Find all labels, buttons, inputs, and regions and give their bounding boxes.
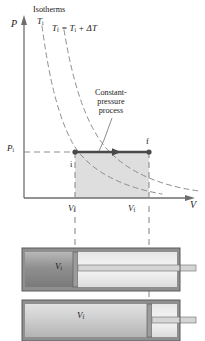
volume-final-tick-label: Vf [128, 204, 135, 214]
volume-axis-label: V [190, 200, 196, 210]
initial-gas-volume [25, 252, 73, 287]
process-label-line-1: Constant- [95, 88, 127, 97]
final-piston [147, 304, 152, 337]
isotherm-tf-equation: Tf = Ti + ΔT [52, 24, 97, 34]
isotherm-ti-subscript: i [42, 20, 44, 26]
state-point-f-label: f [146, 137, 149, 146]
pressure-axis [21, 15, 27, 198]
pressure-axis-label: P [11, 19, 17, 29]
initial-piston [73, 252, 78, 287]
point-marker-f [146, 149, 151, 154]
volume-initial-tick-label: Vi [68, 204, 75, 214]
final-cylinder-volume-subscript: f [83, 314, 85, 320]
constant-pressure-process-label: Constant- pressure process [95, 88, 127, 116]
work-shaded-area [75, 152, 149, 198]
isotherms-label: Isotherms [33, 6, 65, 14]
final-cylinder-volume-label: Vf [77, 311, 84, 321]
process-label-line-2: pressure [95, 97, 127, 106]
final-state-cylinder [22, 300, 196, 341]
isotherm-ti-label: Ti [37, 17, 44, 27]
pressure-initial-tick-label: Pi [7, 144, 14, 154]
process-label-line-3: process [95, 106, 127, 115]
final-gas-volume [25, 304, 147, 337]
volume-final-subscript: f [134, 207, 136, 213]
pv-diagram-figure: P V Isotherms Ti Tf = Ti + ΔT Pi Vi Vf i… [0, 0, 205, 341]
initial-state-cylinder [22, 248, 196, 291]
point-marker-i [72, 149, 77, 154]
state-point-i-label: i [70, 160, 72, 169]
volume-initial-subscript: i [74, 207, 76, 213]
final-piston-rod [152, 317, 196, 323]
initial-cylinder-volume-label: Vi [55, 262, 62, 272]
pressure-initial-subscript: i [13, 147, 15, 153]
initial-cylinder-volume-subscript: i [61, 265, 63, 271]
process-label-leader-line [99, 118, 112, 151]
initial-piston-rod [78, 265, 196, 271]
figure-canvas [0, 0, 205, 341]
